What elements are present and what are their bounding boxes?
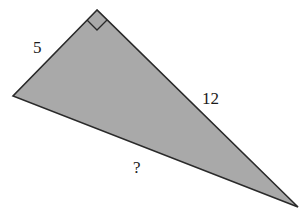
long-leg-label: 12 (202, 89, 219, 108)
short-leg-label: 5 (33, 38, 42, 57)
hypotenuse-label: ? (133, 158, 141, 177)
triangle-shape (13, 10, 298, 207)
right-triangle-diagram: 5 12 ? (0, 0, 308, 209)
